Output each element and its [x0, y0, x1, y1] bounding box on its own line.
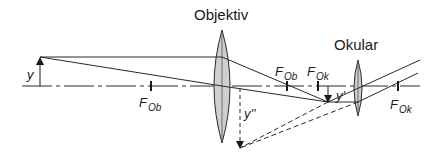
svg-text:F: F: [390, 97, 399, 112]
virtual-ray-2: [240, 102, 358, 148]
eyepiece-label: Okular: [334, 36, 378, 53]
svg-text:Ob: Ob: [284, 71, 298, 82]
svg-text:Ob: Ob: [148, 102, 162, 113]
svg-text:Ok: Ok: [316, 71, 330, 82]
object-label: y: [26, 67, 35, 82]
label-fok-front: F Ok: [307, 64, 330, 82]
label-fok-back: F Ok: [390, 97, 413, 115]
objective-label: Objektiv: [194, 6, 249, 23]
object-arrow-head: [36, 57, 44, 65]
virtual-image-arrow-head: [236, 141, 244, 149]
label-fob-front: F Ob: [139, 95, 162, 113]
svg-text:F: F: [307, 64, 316, 79]
label-fob-back: F Ob: [275, 64, 298, 82]
microscope-ray-diagram: Objektiv Okular y y' y'' F Ob F Ob F Ok …: [0, 0, 448, 160]
intermediate-image-label: y': [335, 88, 346, 103]
virtual-image-label: y'': [243, 106, 256, 121]
ray-exit-1: [358, 73, 418, 102]
svg-text:F: F: [275, 64, 284, 79]
svg-text:Ok: Ok: [399, 104, 413, 115]
svg-text:F: F: [139, 95, 148, 110]
